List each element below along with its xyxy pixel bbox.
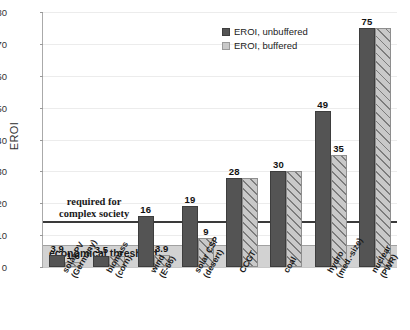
y-tick-label: 0 <box>0 262 7 273</box>
dark-square-swatch-icon <box>222 28 230 36</box>
y-tick-label: 20 <box>0 198 7 209</box>
y-tick-label: 80 <box>0 7 7 18</box>
legend-label: EROI, buffered <box>234 40 297 51</box>
bar-value-label: 28 <box>229 166 240 177</box>
light-square-swatch-icon <box>222 42 230 50</box>
bar-value-label: 19 <box>185 194 196 205</box>
bar-value-label: 35 <box>333 143 344 154</box>
bar-unbuffered <box>315 111 331 267</box>
bar-value-label: 49 <box>317 99 328 110</box>
y-tick-label: 10 <box>0 230 7 241</box>
bar-value-label: 75 <box>362 16 373 27</box>
legend: EROI, unbuffered EROI, buffered <box>222 26 308 54</box>
y-tick-label: 40 <box>0 134 7 145</box>
bar-value-label: 3.9 <box>51 243 64 254</box>
legend-label: EROI, unbuffered <box>234 26 308 37</box>
bar-value-label: 16 <box>140 204 151 215</box>
y-tick-label: 60 <box>0 70 7 81</box>
bar-value-label: 30 <box>273 159 284 170</box>
eroi-bar-chart: EROI required forcomplex society economi… <box>0 0 410 330</box>
legend-item: EROI, buffered <box>222 40 308 51</box>
bars-layer: 3.91.63.5163.91992830493575 <box>43 12 397 267</box>
bar-buffered <box>286 171 302 267</box>
bar-unbuffered <box>138 216 154 267</box>
bar-value-label: 9 <box>203 226 208 237</box>
legend-item: EROI, unbuffered <box>222 26 308 37</box>
x-axis-category-labels: solar PV(Germany)biomass(corn)wind(E-66)… <box>42 270 397 328</box>
y-tick-label: 50 <box>0 102 7 113</box>
y-tick-label: 30 <box>0 166 7 177</box>
bar-unbuffered <box>182 206 198 267</box>
y-tick-label: 70 <box>0 38 7 49</box>
bar-unbuffered <box>226 178 242 267</box>
y-axis-title: EROI <box>8 106 20 166</box>
bar-buffered <box>375 28 391 267</box>
bar-unbuffered <box>359 28 375 267</box>
bar-unbuffered <box>270 171 286 267</box>
plot-area: required forcomplex society economical t… <box>42 12 397 268</box>
